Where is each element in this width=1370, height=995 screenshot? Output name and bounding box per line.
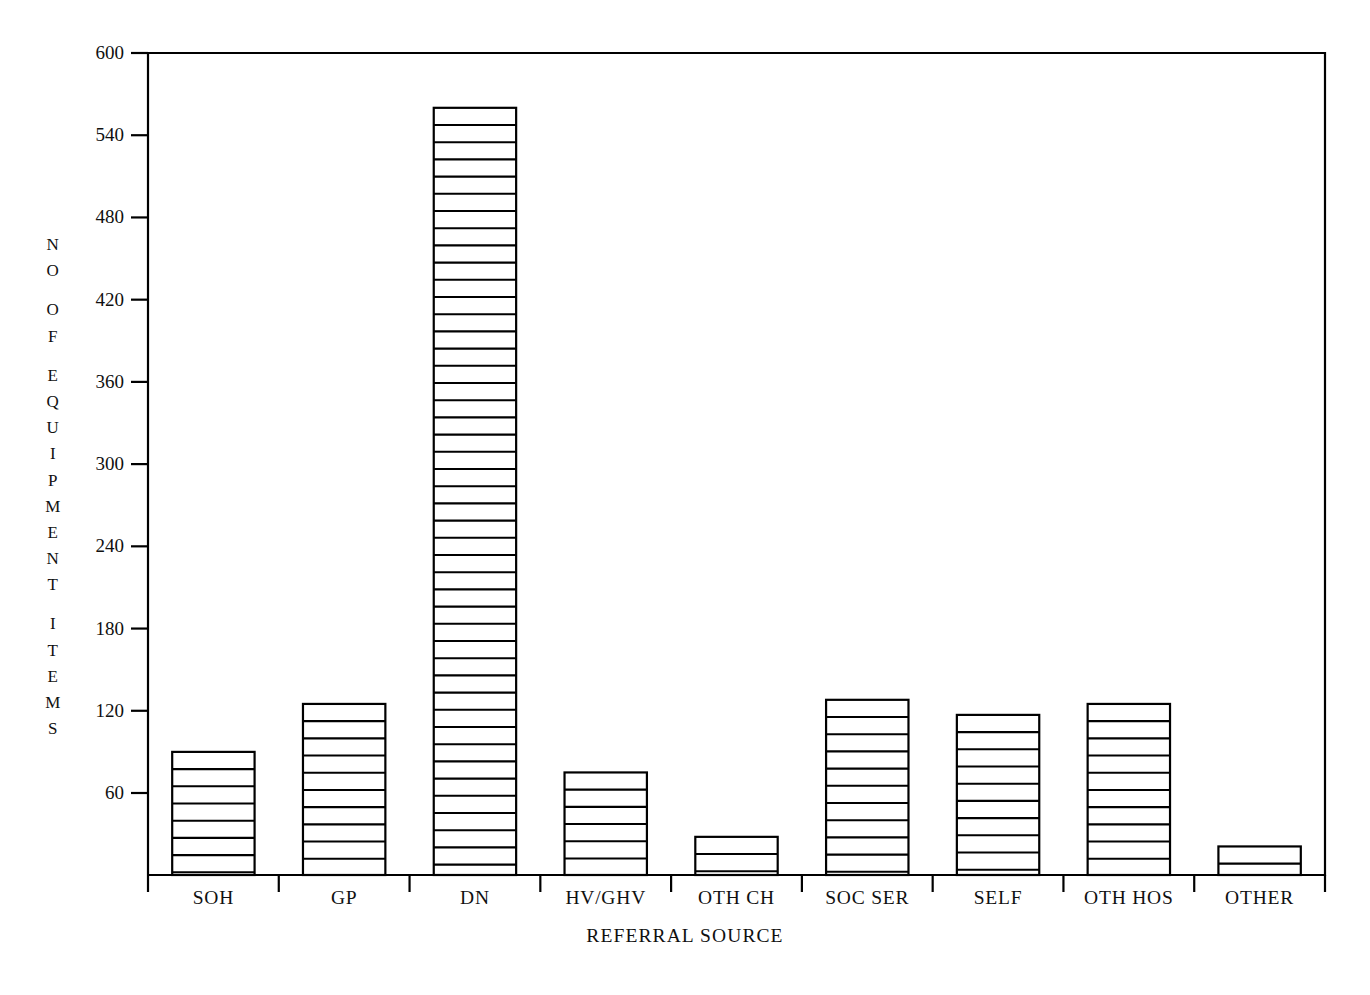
bar-rect <box>826 700 908 875</box>
bar <box>826 700 908 875</box>
bar <box>695 837 777 875</box>
bar <box>565 772 647 875</box>
bar <box>434 108 516 875</box>
bar <box>172 752 254 875</box>
bar-rect <box>695 837 777 875</box>
bar <box>303 704 385 875</box>
bar-rect <box>172 752 254 875</box>
bar <box>1088 704 1170 875</box>
plot-area <box>0 0 1370 995</box>
bar-rect <box>434 108 516 875</box>
bar <box>957 715 1039 875</box>
bar-chart-figure: NOOFEQUIPMENTITEMS 601201802403003604204… <box>0 0 1370 995</box>
bar-rect <box>1218 846 1300 875</box>
bar <box>1218 846 1300 875</box>
bar-rect <box>957 715 1039 875</box>
